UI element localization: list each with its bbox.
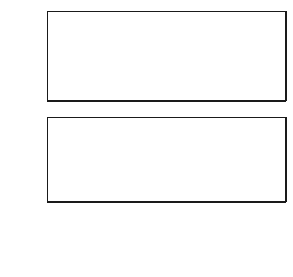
figure	[0, 0, 293, 277]
right-axis-bottom	[286, 117, 287, 202]
x-axis-top	[47, 101, 286, 102]
bar-group-dose	[48, 118, 285, 201]
plot-area-dose	[47, 117, 286, 202]
bar-group-frequency	[48, 12, 285, 100]
plot-area-frequency	[47, 11, 286, 101]
y-axis-top	[47, 11, 48, 101]
x-axis-bottom	[47, 202, 286, 203]
y-axis-bottom	[47, 117, 48, 202]
right-axis-top	[286, 11, 287, 101]
chart-panel-dose	[0, 108, 293, 277]
chart-panel-frequency	[0, 0, 293, 108]
